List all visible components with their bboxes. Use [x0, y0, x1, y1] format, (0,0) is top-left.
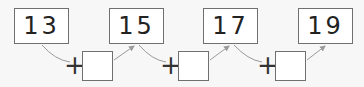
number-3: 17: [212, 12, 249, 40]
answer-blank-2[interactable]: [178, 51, 209, 81]
number-2: 15: [118, 12, 155, 40]
number-box-3: 17: [203, 8, 258, 44]
arrow-3-out: [307, 46, 325, 60]
arrow-2-out: [210, 46, 229, 60]
number-4: 19: [307, 12, 344, 40]
number-box-4: 19: [298, 8, 353, 44]
arrow-1-out: [114, 46, 134, 60]
number-box-1: 13: [14, 8, 69, 44]
number-1: 13: [23, 12, 60, 40]
number-box-2: 15: [109, 8, 164, 44]
answer-blank-1[interactable]: [82, 51, 113, 81]
answer-blank-3[interactable]: [275, 51, 306, 81]
